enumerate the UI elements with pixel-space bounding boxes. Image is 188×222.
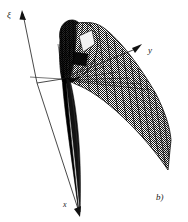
origin-connector <box>30 77 62 79</box>
surface-plot-svg <box>0 0 188 222</box>
axis-label-x: x <box>63 201 67 209</box>
axis-label-xi: ξ <box>7 11 11 20</box>
axis-label-y: y <box>148 46 152 55</box>
cusp-spike <box>62 76 81 214</box>
panel-label: b) <box>156 193 164 202</box>
axis-xi <box>20 10 38 83</box>
figure-container: ξ y x b) <box>0 0 188 222</box>
